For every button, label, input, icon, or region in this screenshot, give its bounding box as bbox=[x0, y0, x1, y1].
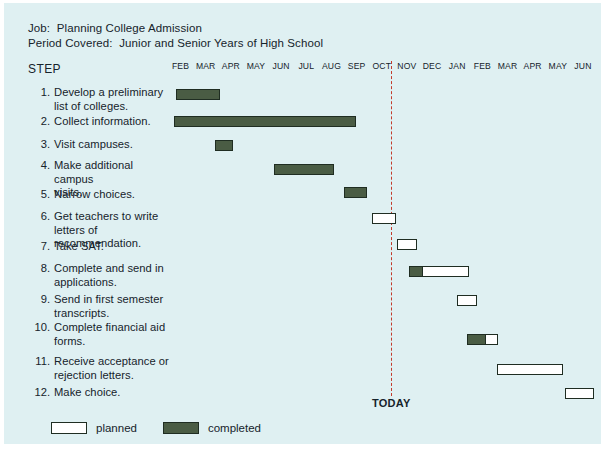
bar-segment-completed bbox=[175, 117, 355, 126]
step-number: 7. bbox=[26, 240, 50, 252]
step-label: Take SAT. bbox=[54, 240, 174, 254]
step-number: 1. bbox=[26, 86, 50, 98]
step-number: 6. bbox=[26, 210, 50, 222]
bar-segment-planned bbox=[398, 240, 416, 249]
step-label: Complete financial aid forms. bbox=[54, 321, 174, 348]
step-number: 3. bbox=[26, 138, 50, 150]
step-label: Narrow choices. bbox=[54, 188, 174, 202]
bar-segment-completed bbox=[345, 188, 366, 197]
completed-swatch-icon bbox=[163, 422, 199, 434]
step-label: Develop a preliminary list of colleges. bbox=[54, 86, 174, 113]
step-label: Make choice. bbox=[54, 386, 174, 400]
step-number: 2. bbox=[26, 115, 50, 127]
step-number: 9. bbox=[26, 293, 50, 305]
step-label: Collect information. bbox=[54, 115, 174, 129]
gantt-bar[interactable] bbox=[497, 364, 563, 375]
gantt-bar[interactable] bbox=[176, 89, 220, 100]
step-label: Receive acceptance or rejection letters. bbox=[54, 355, 174, 382]
gantt-bar[interactable] bbox=[565, 388, 593, 399]
step-label: Send in first semester transcripts. bbox=[54, 293, 174, 320]
gantt-bar[interactable] bbox=[409, 266, 469, 277]
legend-label-planned: planned bbox=[96, 422, 137, 434]
step-number: 12. bbox=[26, 386, 50, 398]
bar-segment-completed bbox=[216, 141, 232, 150]
gantt-chart-frame: Job: Planning College Admission Period C… bbox=[4, 3, 601, 444]
gantt-rows: 1.Develop a preliminary list of colleges… bbox=[4, 3, 601, 444]
legend-item-planned: planned bbox=[51, 422, 137, 434]
bar-segment-completed bbox=[177, 90, 219, 99]
chart-legend: planned completed bbox=[51, 420, 287, 436]
gantt-bar[interactable] bbox=[274, 164, 334, 175]
gantt-bar[interactable] bbox=[372, 213, 397, 224]
step-label: Complete and send in applications. bbox=[54, 262, 174, 289]
bar-segment-planned bbox=[498, 365, 562, 374]
gantt-bar[interactable] bbox=[457, 295, 477, 306]
legend-label-completed: completed bbox=[208, 422, 261, 434]
step-number: 10. bbox=[26, 321, 50, 333]
step-number: 4. bbox=[26, 159, 50, 171]
gantt-bar[interactable] bbox=[215, 140, 233, 151]
bar-segment-planned bbox=[458, 296, 476, 305]
gantt-bar[interactable] bbox=[344, 187, 367, 198]
bar-segment-completed bbox=[468, 335, 486, 344]
step-number: 5. bbox=[26, 188, 50, 200]
step-number: 8. bbox=[26, 262, 50, 274]
bar-segment-planned bbox=[486, 335, 497, 344]
bar-segment-planned bbox=[423, 267, 469, 276]
bar-segment-planned bbox=[566, 389, 592, 398]
gantt-bar[interactable] bbox=[467, 334, 498, 345]
step-label: Visit campuses. bbox=[54, 138, 174, 152]
gantt-bar[interactable] bbox=[174, 116, 356, 127]
bar-segment-completed bbox=[410, 267, 423, 276]
bar-segment-planned bbox=[373, 214, 396, 223]
legend-item-completed: completed bbox=[163, 422, 261, 434]
step-number: 11. bbox=[26, 355, 50, 367]
planned-swatch-icon bbox=[51, 422, 87, 434]
bar-segment-completed bbox=[275, 165, 333, 174]
gantt-bar[interactable] bbox=[397, 239, 417, 250]
